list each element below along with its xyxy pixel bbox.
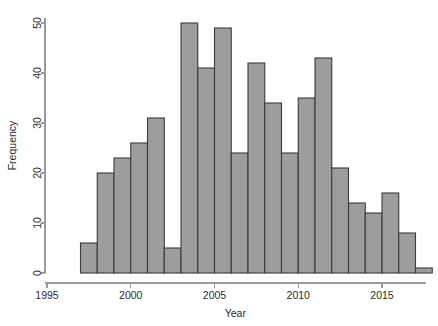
y-axis-title: Frequency [6,120,18,170]
x-axis-tick-label: 2015 [370,289,394,301]
histogram-bar [131,143,148,273]
histogram-bar [315,58,332,273]
histogram-bar [399,233,416,273]
histogram-bar [181,23,198,273]
histogram-bar [282,153,299,273]
histogram-bar [97,173,114,273]
y-axis-tick-label: 10 [31,217,43,229]
histogram-bar [148,118,165,273]
histogram-bar [349,203,366,273]
x-axis-tick-label: 2000 [119,289,143,301]
y-axis-tick-label: 50 [31,17,43,29]
histogram-bar [215,28,232,273]
histogram-bar [265,103,282,273]
y-axis-tick-label: 40 [31,67,43,79]
y-axis-tick-label: 0 [31,270,43,276]
histogram-bar [365,213,382,273]
histogram-chart: 01020304050 19952000200520102015 Frequen… [0,0,438,326]
chart-canvas: 01020304050 19952000200520102015 Frequen… [0,0,438,326]
x-axis-tick-label: 2005 [203,289,227,301]
x-axis-tick-label: 1995 [35,289,59,301]
histogram-bar [416,268,433,273]
histogram-bar [248,63,265,273]
histogram-bar [198,68,215,273]
y-axis-tick-label: 20 [31,167,43,179]
histogram-bar [298,98,315,273]
histogram-bar [332,168,349,273]
histogram-bar [164,248,181,273]
y-axis-tick-label: 30 [31,117,43,129]
histogram-bar [114,158,131,273]
histogram-bar [81,243,98,273]
x-axis-title: Year [225,307,247,319]
x-axis-tick-label: 2010 [287,289,311,301]
histogram-bar [382,193,399,273]
histogram-bar [231,153,248,273]
